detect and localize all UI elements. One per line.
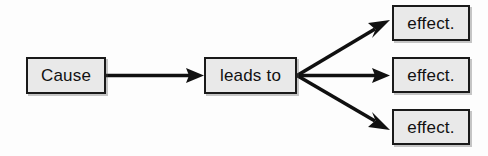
node-cause[interactable]: Cause xyxy=(26,57,106,94)
arrowhead-icon xyxy=(368,20,390,38)
node-effect-1[interactable]: effect. xyxy=(392,5,470,41)
edge-cause-to-leads-to xyxy=(106,68,204,83)
node-effect-2[interactable]: effect. xyxy=(392,57,470,93)
node-effect-3-label: effect. xyxy=(407,119,454,136)
edge-line xyxy=(297,29,375,76)
node-leads-to-label: leads to xyxy=(220,67,281,84)
edge-leads-to-to-effect-1 xyxy=(297,20,390,76)
node-leads-to[interactable]: leads to xyxy=(204,57,297,94)
edge-leads-to-to-effect-3 xyxy=(297,76,390,131)
node-effect-1-label: effect. xyxy=(407,15,454,32)
node-effect-3[interactable]: effect. xyxy=(392,109,470,145)
node-cause-label: Cause xyxy=(41,67,91,84)
node-effect-2-label: effect. xyxy=(407,67,454,84)
arrowhead-icon xyxy=(368,112,390,130)
edge-leads-to-to-effect-2 xyxy=(297,68,390,83)
diagram-canvas: Cause leads to effect. effect. effect. xyxy=(0,0,488,156)
edge-line xyxy=(297,76,375,122)
